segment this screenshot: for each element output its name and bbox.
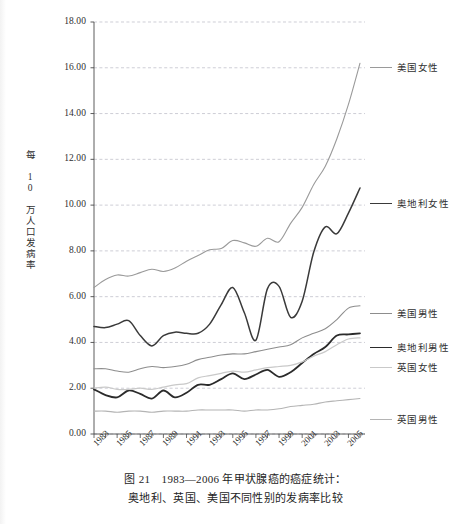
series-line-英国男性 (94, 399, 360, 413)
legend-item: 英国女性 (370, 360, 439, 374)
legend-label: 奥地利女性 (397, 196, 449, 210)
y-tick-label: 2.00 (40, 382, 86, 392)
series-line-美国女性 (94, 63, 360, 287)
y-tick-label: 6.00 (40, 291, 86, 301)
legend-label: 英国男性 (397, 412, 439, 426)
y-tick-label: 4.00 (40, 336, 86, 346)
legend-label: 奥地利男性 (397, 340, 449, 354)
legend-swatch-line-icon (370, 367, 392, 368)
figure-root: 每 10 万人口发病率 0.002.004.006.008.0010.0012.… (0, 0, 471, 524)
legend-label: 英国女性 (397, 360, 439, 374)
legend-swatch-line-icon (370, 347, 392, 348)
legend-swatch-line-icon (370, 313, 392, 314)
y-tick-label: 12.00 (40, 153, 86, 163)
series-line-美国男性 (94, 306, 360, 372)
caption-line-1: 图 21 1983—2006 年甲状腺癌的癌症统计： (0, 470, 471, 489)
legend-swatch-line-icon (370, 419, 392, 420)
series-line-奥地利女性 (94, 188, 360, 346)
figure-caption: 图 21 1983—2006 年甲状腺癌的癌症统计： 奥地利、英国、美国不同性别… (0, 470, 471, 508)
legend-item: 英国男性 (370, 412, 439, 426)
y-tick-label: 8.00 (40, 245, 86, 255)
legend-label: 美国女性 (397, 60, 439, 74)
legend-label: 美国男性 (397, 306, 439, 320)
series-line-英国女性 (94, 338, 360, 390)
legend-item: 美国女性 (370, 60, 439, 74)
chart-plot-area: 每 10 万人口发病率 0.002.004.006.008.0010.0012.… (0, 0, 471, 470)
legend-item: 美国男性 (370, 306, 439, 320)
legend-swatch-line-icon (370, 203, 392, 204)
legend-item: 奥地利男性 (370, 340, 449, 354)
legend-item: 奥地利女性 (370, 196, 449, 210)
y-tick-label: 0.00 (40, 428, 86, 438)
legend-swatch-line-icon (370, 67, 392, 68)
y-tick-label: 18.00 (40, 16, 86, 26)
y-tick-label: 14.00 (40, 108, 86, 118)
y-tick-label: 16.00 (40, 62, 86, 72)
y-tick-label: 10.00 (40, 199, 86, 209)
y-axis-title: 每 10 万人口发病率 (22, 150, 36, 271)
caption-line-2: 奥地利、英国、美国不同性别的发病率比较 (0, 489, 471, 508)
